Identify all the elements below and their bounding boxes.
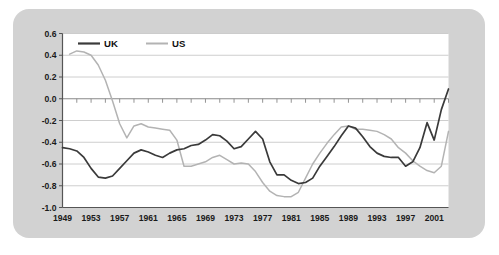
x-tick-label: 1997 xyxy=(396,213,415,223)
x-tick-label: 1989 xyxy=(339,213,358,223)
x-tick-label: 1985 xyxy=(310,213,329,223)
y-tick-label: 0.0 xyxy=(45,94,57,104)
legend-label-us: US xyxy=(172,38,186,49)
x-tick-label: 1969 xyxy=(196,213,215,223)
x-tick-label: 1965 xyxy=(167,213,186,223)
y-axis-tick-labels: 0.60.40.20.0-0.2-0.4-0.6-0.8-1.0 xyxy=(42,29,57,213)
x-tick-label: 1961 xyxy=(139,213,158,223)
y-tick-label: 0.6 xyxy=(45,29,57,39)
y-tick-label: -0.4 xyxy=(42,137,57,147)
line-chart: 0.60.40.20.0-0.2-0.4-0.6-0.8-1.0 1949195… xyxy=(0,0,499,255)
x-tick-label: 1949 xyxy=(53,213,72,223)
x-tick-label: 1973 xyxy=(224,213,243,223)
x-tick-label: 1977 xyxy=(253,213,272,223)
y-tick-label: -0.8 xyxy=(42,181,57,191)
x-tick-label: 1981 xyxy=(282,213,301,223)
x-axis-tick-labels: 1949195319571961196519691973197719811985… xyxy=(53,213,444,223)
y-tick-label: -0.6 xyxy=(42,159,57,169)
x-tick-label: 1957 xyxy=(110,213,129,223)
chart-figure: 0.60.40.20.0-0.2-0.4-0.6-0.8-1.0 1949195… xyxy=(0,0,499,255)
y-tick-label: 0.2 xyxy=(45,72,57,82)
x-tick-label: 2001 xyxy=(425,213,444,223)
y-tick-label: -1.0 xyxy=(42,203,57,213)
y-tick-label: 0.4 xyxy=(45,50,57,60)
x-tick-label: 1993 xyxy=(367,213,386,223)
legend-label-uk: UK xyxy=(104,38,118,49)
x-tick-label: 1953 xyxy=(82,213,101,223)
y-tick-label: -0.2 xyxy=(42,116,57,126)
